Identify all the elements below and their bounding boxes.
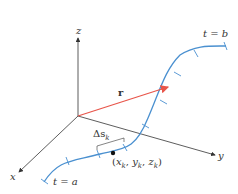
sample-point — [111, 151, 115, 155]
arc-segment-label: Δsk — [93, 129, 110, 142]
curve-start-label: t = a — [53, 177, 78, 187]
z-axis-label: z — [76, 26, 81, 36]
y-axis-label: y — [218, 151, 224, 161]
point-label: (xk, yk, zk) — [112, 157, 162, 170]
x-axis — [19, 116, 78, 172]
vector-label: r — [118, 88, 123, 98]
x-axis-label: x — [10, 172, 16, 182]
curve-end-label: t = b — [203, 29, 228, 39]
